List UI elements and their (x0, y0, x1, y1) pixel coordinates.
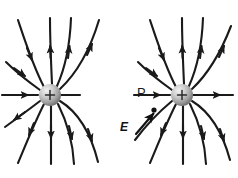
field-line-arrow (68, 46, 70, 58)
electric-field-figure: + (0, 0, 238, 178)
e-vector-label: E (120, 121, 128, 133)
point-p-label: P (137, 86, 146, 99)
field-diagram-svg: + (0, 0, 238, 178)
right-charge-sphere: + (171, 84, 193, 106)
field-line-arrow (200, 46, 202, 58)
left-charge-sphere: + (39, 84, 61, 106)
point-p-marker (151, 107, 156, 112)
